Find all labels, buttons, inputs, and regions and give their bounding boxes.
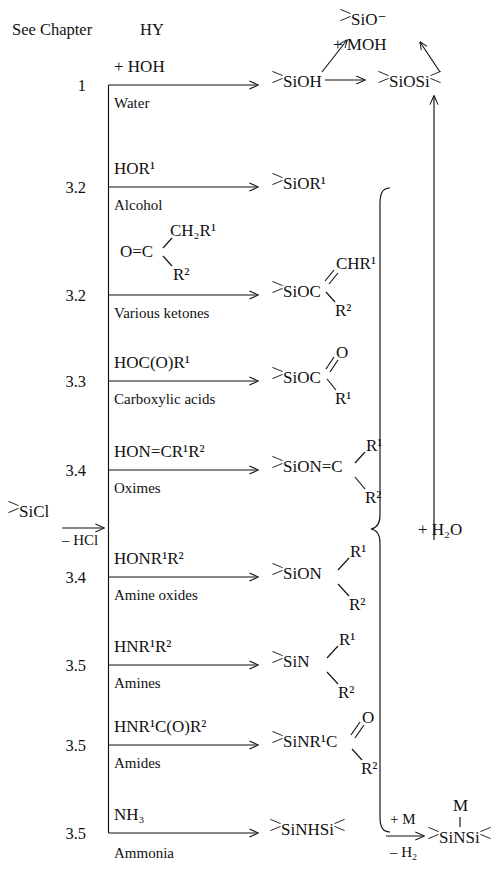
product-substituent-top: R¹ (339, 631, 355, 648)
product-disilazane: SiNHSi (270, 818, 345, 838)
chapter-number: 3.3 (48, 374, 86, 391)
product-label: SiOC (283, 282, 321, 301)
reagent-substituent-top: CH₂R¹ (170, 222, 216, 239)
product-label: SiON (283, 564, 322, 583)
reagent-formula: HOC(O)R¹ (114, 354, 190, 371)
chapter-number: 3.4 (48, 463, 86, 480)
product-enol-ether: SiOC (272, 280, 321, 300)
product-label: SiOH (283, 72, 322, 91)
silyl-bond-icon (272, 280, 283, 297)
reagent-name: Amine oxides (114, 588, 198, 603)
product-silyl-ester: SiOC (272, 366, 321, 386)
product-label: SiNHSi (281, 820, 334, 839)
reagent-substituent-bottom: R² (173, 266, 189, 283)
product-silyl-oxime: SiON=C (272, 455, 343, 475)
starting-material-label: SiCl (19, 502, 49, 521)
arrow-label-lose-hydrogen: – H₂ (390, 845, 417, 860)
silyl-bond-icon (430, 70, 441, 87)
product-substituent-top: O (362, 709, 374, 726)
product-substituent-bottom: R² (361, 760, 377, 777)
product-silyl-ether: SiOR¹ (272, 172, 326, 192)
silyl-bond-icon (340, 8, 351, 25)
product-silanol: SiOH (272, 70, 322, 90)
product-substituent-bottom: R² (349, 596, 365, 613)
silyl-bond-icon (272, 70, 283, 87)
silyl-bond-icon (272, 650, 283, 667)
chapter-number: 1 (48, 78, 86, 95)
silyl-bond-icon (334, 818, 345, 835)
chapter-number: 3.2 (48, 180, 86, 197)
product-label: SiOR¹ (283, 174, 326, 193)
reagent-formula: NH₃ (114, 806, 144, 823)
coreagent-moh: + MOH (333, 36, 387, 53)
reagent-name: Ammonia (114, 846, 174, 861)
reagent-name: Alcohol (114, 198, 162, 213)
product-substituent-bottom: R² (338, 684, 354, 701)
reagent-name: Amines (114, 676, 161, 691)
reaction-scheme-diagram: SiOSi --> (0, 0, 492, 883)
product-substituent-top: O (336, 344, 348, 361)
silyl-bond-icon (272, 562, 283, 579)
reagent-formula: HONR¹R² (114, 550, 184, 567)
silyl-bond-icon (8, 500, 19, 517)
reagent-name: Carboxylic acids (114, 392, 215, 407)
byproduct-hcl: – HCl (62, 533, 98, 548)
chapter-number: 3.5 (48, 738, 86, 755)
product-label: SiNR¹C (283, 732, 337, 751)
silyl-bond-icon (272, 455, 283, 472)
product-silanolate: SiO⁻ (340, 8, 386, 28)
product-silylamide: SiNR¹C (272, 730, 337, 750)
reagent-name: Various ketones (114, 306, 209, 321)
product-substituent-bottom: R² (365, 489, 381, 506)
header-see-chapter: See Chapter (12, 22, 92, 39)
reagent-formula: HON=CR¹R² (114, 443, 205, 460)
chapter-number: 3.4 (48, 570, 86, 587)
reagent-formula: + HOH (114, 58, 165, 75)
product-label: SiO⁻ (351, 10, 386, 29)
arrow-label-add-metal: + M (390, 812, 416, 827)
silyl-bond-icon (270, 818, 281, 835)
reagent-name: Amides (114, 756, 161, 771)
header-hy: HY (140, 22, 164, 39)
product-silyl-hydroxylamine: SiON (272, 562, 322, 582)
reagent-name: Oximes (114, 481, 161, 496)
product-substituent-bottom: R¹ (335, 390, 351, 407)
silyl-bond-icon (272, 730, 283, 747)
product-label: SiOC (283, 368, 321, 387)
reagent-formula: HNR¹C(O)R² (114, 718, 206, 735)
reagent-formula: HOR¹ (114, 160, 155, 177)
brace-label-water: + H₂O (418, 521, 462, 538)
product-substituent-top: CHR¹ (336, 255, 376, 272)
chapter-number: 3.5 (48, 826, 86, 843)
product-label: SiOSi (389, 72, 430, 91)
product-label: SiNSi (439, 828, 480, 847)
product-substituent-bottom: R² (335, 302, 351, 319)
reagent-formula: O=C (120, 243, 153, 260)
silyl-bond-icon (480, 826, 491, 843)
silyl-bond-icon (378, 70, 389, 87)
reagent-name: Water (114, 96, 149, 111)
product-label: SiN (283, 652, 309, 671)
chapter-number: 3.5 (48, 658, 86, 675)
product-siloxane: SiOSi (378, 70, 441, 90)
chapter-number: 3.2 (48, 288, 86, 305)
metal-substituent-label: M (453, 797, 468, 814)
silyl-bond-icon (272, 172, 283, 189)
product-metalated-silazane: SiNSi (428, 826, 491, 846)
product-substituent-top: R¹ (366, 437, 382, 454)
silyl-bond-icon (272, 366, 283, 383)
reagent-formula: HNR¹R² (114, 638, 171, 655)
product-silylamine: SiN (272, 650, 309, 670)
product-substituent-top: R¹ (350, 543, 366, 560)
silyl-bond-icon (428, 826, 439, 843)
starting-material-sicl: SiCl (8, 500, 49, 520)
product-label: SiON=C (283, 457, 343, 476)
